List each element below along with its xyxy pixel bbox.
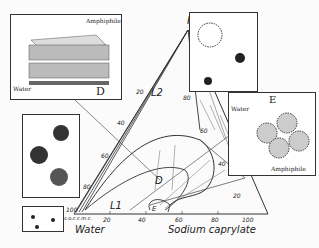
- inset-lamellar: Amphiphile Water D: [10, 14, 122, 100]
- left-tick-60: 60: [101, 152, 109, 159]
- right-tick-60: 60: [200, 127, 208, 134]
- left-tick-80: 80: [83, 183, 91, 190]
- normal-micelles-illustration: [23, 115, 81, 199]
- cmc-label: c.m.c.: [77, 215, 92, 221]
- region-label-d: D: [155, 175, 163, 186]
- region-label-l1: L1: [110, 200, 122, 211]
- inset-reverse-micelles: [189, 12, 258, 92]
- right-tick-40: 40: [218, 160, 226, 167]
- reverse-micelles-illustration: [190, 13, 259, 93]
- vertex-label-sodium-caprylate: Sodium caprylate: [168, 224, 256, 235]
- bottom-tick-80: 80: [211, 216, 219, 223]
- region-label-e: E: [152, 205, 156, 213]
- vertex-label-water: Water: [75, 224, 105, 235]
- bottom-tick-60: 60: [175, 216, 183, 223]
- left-tick-40: 40: [117, 119, 125, 126]
- right-tick-20: 20: [233, 192, 241, 199]
- vertex-value-bottom-left: 100: [66, 206, 77, 213]
- inset-hexagonal: E Water Amphiphile: [228, 92, 316, 176]
- phase-letter-e: E: [269, 94, 276, 105]
- water-label: Water: [231, 105, 249, 112]
- inset-monomers: [22, 206, 64, 232]
- right-tick-80: 80: [183, 94, 191, 101]
- amphiphile-label: Amphiphile: [86, 17, 121, 24]
- bottom-tick-40: 40: [138, 216, 146, 223]
- soc-label: s.o.c.: [64, 215, 77, 221]
- monomers-illustration: [23, 207, 65, 233]
- bottom-tick-100: 100: [242, 216, 253, 223]
- region-label-l2: L2: [151, 87, 163, 98]
- phase-letter-d: D: [96, 85, 105, 98]
- amphiphile-label: Amphiphile: [271, 165, 306, 172]
- bottom-tick-20: 20: [103, 216, 111, 223]
- inset-normal-micelles: [22, 114, 80, 198]
- left-tick-20: 20: [136, 88, 144, 95]
- water-label: Water: [13, 85, 31, 92]
